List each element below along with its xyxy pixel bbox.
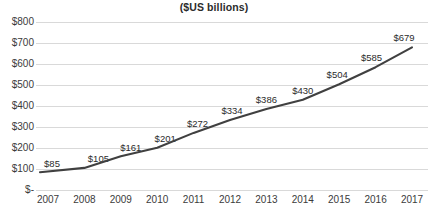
data-point-label: $585 bbox=[352, 53, 392, 63]
x-axis-tick-label: 2016 bbox=[359, 194, 393, 205]
data-point-label: $504 bbox=[317, 70, 357, 80]
data-point-label: $386 bbox=[246, 95, 286, 105]
data-point-label: $105 bbox=[78, 154, 118, 164]
x-axis: 2007200820092010201120122013201420152016… bbox=[0, 0, 428, 211]
data-point-label: $272 bbox=[178, 119, 218, 129]
line-chart: ($US billions) $800$700$600$500$400$300$… bbox=[0, 0, 428, 211]
x-axis-tick-label: 2008 bbox=[67, 194, 101, 205]
x-axis-tick-label: 2009 bbox=[104, 194, 138, 205]
x-axis-tick-label: 2017 bbox=[395, 194, 428, 205]
data-point-label: $430 bbox=[283, 86, 323, 96]
x-axis-tick-label: 2012 bbox=[213, 194, 247, 205]
data-point-label: $334 bbox=[212, 106, 252, 116]
x-axis-tick-label: 2013 bbox=[249, 194, 283, 205]
x-axis-tick-label: 2007 bbox=[31, 194, 65, 205]
data-point-label: $679 bbox=[384, 33, 424, 43]
data-point-label: $161 bbox=[111, 143, 151, 153]
data-point-label: $85 bbox=[32, 159, 72, 169]
data-point-label: $201 bbox=[145, 134, 185, 144]
x-axis-tick-label: 2014 bbox=[286, 194, 320, 205]
x-axis-tick-label: 2011 bbox=[177, 194, 211, 205]
x-axis-tick-label: 2010 bbox=[140, 194, 174, 205]
x-axis-tick-label: 2015 bbox=[322, 194, 356, 205]
